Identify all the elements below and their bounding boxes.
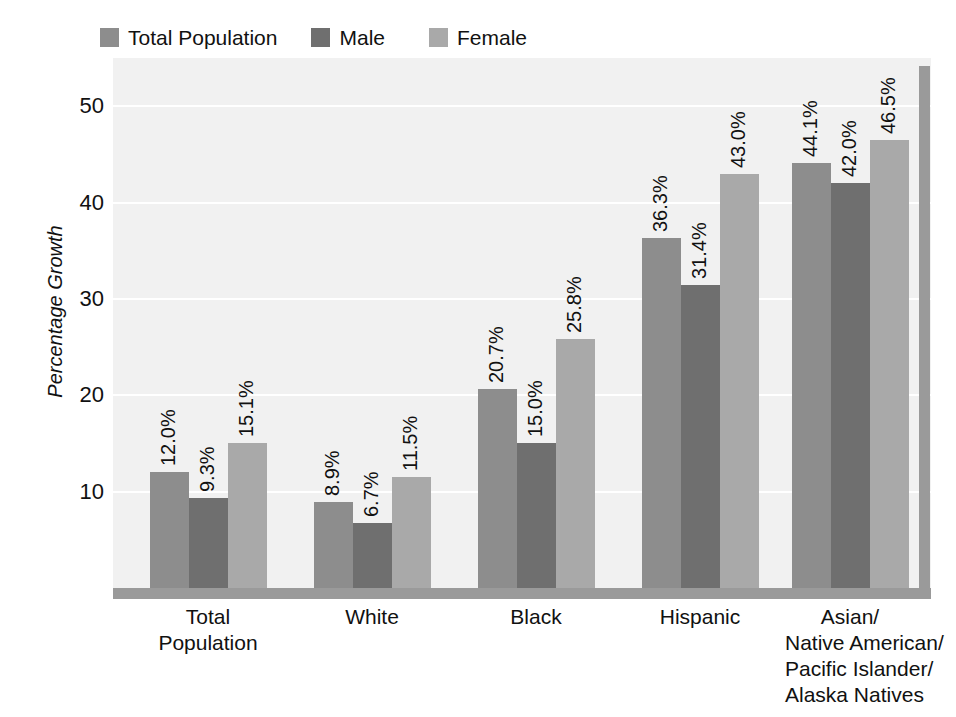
- y-axis-tick-labels: 1020304050: [0, 0, 104, 717]
- plot-right-edge-bar: [919, 66, 930, 599]
- legend-swatch-female: [429, 28, 448, 47]
- bar[interactable]: 31.4%: [681, 285, 720, 588]
- y-axis-tick-label: 20: [0, 384, 104, 406]
- bar-slot: 11.5%: [392, 58, 431, 588]
- y-axis-tick-label: 40: [0, 192, 104, 214]
- bar-value-label: 12.0%: [158, 410, 178, 467]
- bar[interactable]: 9.3%: [189, 498, 228, 588]
- x-axis-category-label-line: Population: [143, 630, 273, 656]
- bar-value-label: 11.5%: [400, 416, 420, 471]
- bar-group-bars: 12.0%9.3%15.1%: [143, 58, 273, 588]
- bar-slot: 43.0%: [720, 58, 759, 588]
- x-axis-category-label-line: Black: [471, 604, 601, 630]
- bar[interactable]: 11.5%: [392, 477, 431, 588]
- x-axis-category-label: Hispanic: [635, 604, 765, 630]
- x-axis-category-label: White: [307, 604, 437, 630]
- chart-legend: Total Population Male Female: [100, 20, 527, 54]
- bar[interactable]: 44.1%: [792, 163, 831, 588]
- bar-slot: 9.3%: [189, 58, 228, 588]
- bar-group: 8.9%6.7%11.5%: [307, 58, 437, 588]
- bar[interactable]: 25.8%: [556, 339, 595, 588]
- bar[interactable]: 36.3%: [642, 238, 681, 588]
- plot-area: 12.0%9.3%15.1%8.9%6.7%11.5%20.7%15.0%25.…: [113, 58, 931, 588]
- bar[interactable]: 6.7%: [353, 523, 392, 588]
- legend-label-male: Male: [339, 27, 385, 48]
- bar-value-label: 6.7%: [361, 472, 381, 518]
- x-axis-baseline: [113, 588, 931, 599]
- bar-value-label: 9.3%: [197, 447, 217, 493]
- x-axis-category-label-line: Hispanic: [635, 604, 765, 630]
- y-axis-tick-label: 50: [0, 95, 104, 117]
- bar-value-label: 20.7%: [486, 326, 506, 383]
- bar-slot: 46.5%: [870, 58, 909, 588]
- y-axis-tick-label: 10: [0, 481, 104, 503]
- bar-value-label: 43.0%: [728, 111, 748, 168]
- bar-slot: 44.1%: [792, 58, 831, 588]
- x-axis-category-label-line: Asian/: [785, 604, 915, 630]
- bar-slot: 25.8%: [556, 58, 595, 588]
- bar-slot: 36.3%: [642, 58, 681, 588]
- x-axis-category-label: TotalPopulation: [143, 604, 273, 656]
- x-axis-category-label-line: Alaska Natives: [785, 682, 915, 708]
- bar-slot: 6.7%: [353, 58, 392, 588]
- legend-label-female: Female: [457, 27, 527, 48]
- bar-slot: 8.9%: [314, 58, 353, 588]
- bar-groups: 12.0%9.3%15.1%8.9%6.7%11.5%20.7%15.0%25.…: [113, 58, 931, 588]
- bar-value-label: 42.0%: [839, 121, 859, 178]
- bar-group-bars: 36.3%31.4%43.0%: [635, 58, 765, 588]
- bar-value-label: 44.1%: [800, 100, 820, 157]
- bar-group-bars: 20.7%15.0%25.8%: [471, 58, 601, 588]
- bar[interactable]: 20.7%: [478, 389, 517, 588]
- bar-group-bars: 8.9%6.7%11.5%: [307, 58, 437, 588]
- legend-item-total-population: Total Population: [100, 27, 277, 48]
- bar[interactable]: 46.5%: [870, 140, 909, 588]
- bar-group: 12.0%9.3%15.1%: [143, 58, 273, 588]
- bar-group: 20.7%15.0%25.8%: [471, 58, 601, 588]
- bar-slot: 20.7%: [478, 58, 517, 588]
- bar[interactable]: 12.0%: [150, 472, 189, 588]
- legend-item-male: Male: [311, 27, 385, 48]
- bar-slot: 15.0%: [517, 58, 556, 588]
- bar[interactable]: 8.9%: [314, 502, 353, 588]
- bar[interactable]: 42.0%: [831, 183, 870, 588]
- x-axis-category-label: Black: [471, 604, 601, 630]
- bar-value-label: 15.1%: [236, 380, 256, 437]
- bar[interactable]: 15.1%: [228, 443, 267, 589]
- bar-value-label: 46.5%: [878, 77, 898, 134]
- bar-value-label: 15.0%: [525, 381, 545, 438]
- x-axis-category-label-line: Total: [143, 604, 273, 630]
- bar-value-label: 36.3%: [650, 175, 670, 232]
- bar-slot: 12.0%: [150, 58, 189, 588]
- x-axis-category-labels: TotalPopulationWhiteBlackHispanicAsian/N…: [113, 604, 931, 717]
- legend-item-female: Female: [429, 27, 527, 48]
- bar-group: 44.1%42.0%46.5%: [785, 58, 915, 588]
- bar-value-label: 25.8%: [564, 277, 584, 334]
- x-axis-category-label-line: White: [307, 604, 437, 630]
- x-axis-category-label-line: Native American/: [785, 630, 915, 656]
- y-axis-tick-label: 30: [0, 288, 104, 310]
- bar-slot: 15.1%: [228, 58, 267, 588]
- bar-value-label: 8.9%: [322, 451, 342, 497]
- bar-group-bars: 44.1%42.0%46.5%: [785, 58, 915, 588]
- legend-swatch-male: [311, 28, 330, 47]
- x-axis-category-label-line: Pacific Islander/: [785, 656, 915, 682]
- bar-slot: 31.4%: [681, 58, 720, 588]
- bar-slot: 42.0%: [831, 58, 870, 588]
- x-axis-category-label: Asian/Native American/Pacific Islander/A…: [785, 604, 915, 708]
- bar[interactable]: 15.0%: [517, 443, 556, 588]
- bar[interactable]: 43.0%: [720, 174, 759, 588]
- bar-value-label: 31.4%: [689, 223, 709, 280]
- legend-label-total-population: Total Population: [128, 27, 277, 48]
- bar-group: 36.3%31.4%43.0%: [635, 58, 765, 588]
